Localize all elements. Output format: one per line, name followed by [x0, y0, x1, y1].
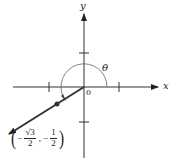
origin-label: 0 [86, 89, 91, 97]
y-sign: − [43, 133, 48, 143]
y-numerator: 1 [50, 128, 57, 139]
point-marker [55, 102, 60, 107]
x-numerator: √3 [24, 128, 35, 139]
x-sign: − [17, 133, 22, 143]
y-axis-label: y [80, 1, 86, 11]
y-fraction: 1 2 [50, 128, 57, 149]
x-denominator: 2 [28, 139, 33, 149]
x-axis-label: x [163, 81, 169, 91]
x-fraction: √3 2 [24, 128, 35, 149]
open-paren: ( [11, 127, 16, 149]
y-denominator: 2 [51, 139, 56, 149]
close-paren: ) [59, 127, 64, 149]
point-coordinates: ( − √3 2 , − 1 2 ) [10, 127, 65, 149]
theta-label: θ [102, 63, 108, 73]
separator: , [39, 133, 41, 143]
